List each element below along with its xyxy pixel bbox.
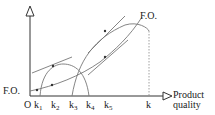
tick-label-k5: k5 bbox=[104, 99, 113, 112]
diagram-canvas: F.O. F.O. O k1 k2 k3 k4 k5 k Product qua… bbox=[0, 0, 215, 115]
tick-label-k4: k4 bbox=[86, 99, 95, 112]
x-axis-label-line2: quality bbox=[173, 99, 201, 110]
tangency-point bbox=[36, 89, 38, 91]
y-axis-arrow-icon bbox=[26, 6, 34, 16]
tangency-point bbox=[52, 65, 54, 67]
left-fo-label: F.O. bbox=[3, 85, 20, 96]
top-fo-label: F.O. bbox=[140, 10, 157, 21]
origin-label: O bbox=[24, 99, 31, 110]
tangency-point bbox=[104, 56, 106, 58]
tick-label-k2: k2 bbox=[51, 99, 60, 112]
tangent-line-1 bbox=[32, 57, 72, 73]
tangency-point bbox=[104, 30, 106, 32]
tick-label-k1: k1 bbox=[34, 99, 43, 112]
tangent-line-3 bbox=[88, 40, 128, 75]
x-axis-arrow-icon bbox=[163, 92, 172, 100]
tick-label-k3: k3 bbox=[69, 99, 78, 112]
tangency-point bbox=[51, 84, 53, 86]
small-arch-curve bbox=[40, 64, 89, 96]
fo-curve bbox=[30, 17, 142, 91]
large-arch-curve bbox=[72, 24, 149, 96]
tick-label-k: k bbox=[146, 99, 151, 110]
